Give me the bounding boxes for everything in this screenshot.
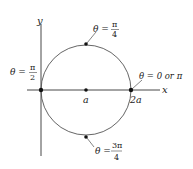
label-theta-pi-over-2: θ = π 2 bbox=[10, 63, 37, 82]
svg-text:4: 4 bbox=[114, 153, 119, 162]
label-theta-0-or-pi: θ = 0 or π bbox=[139, 71, 183, 81]
label-theta-pi-over-4: θ = π 4 bbox=[93, 20, 119, 39]
point-center bbox=[84, 88, 88, 92]
svg-text:θ =: θ = bbox=[95, 146, 111, 156]
point-origin bbox=[39, 88, 43, 92]
svg-text:2: 2 bbox=[30, 73, 35, 82]
svg-text:4: 4 bbox=[112, 30, 117, 39]
leader-bottom bbox=[87, 138, 94, 147]
svg-text:π: π bbox=[30, 63, 35, 72]
two-a-label: 2a bbox=[129, 94, 142, 105]
x-axis-label: x bbox=[162, 84, 168, 95]
label-theta-3pi-over-4: θ = 3π 4 bbox=[95, 141, 122, 162]
svg-text:π: π bbox=[112, 20, 117, 29]
svg-text:3π: 3π bbox=[112, 141, 122, 150]
svg-text:θ =: θ = bbox=[93, 24, 109, 34]
polar-diagram: y x a 2a θ = π 4 θ = π 2 θ = 0 or π θ = … bbox=[0, 0, 193, 169]
center-label: a bbox=[83, 94, 89, 105]
leader-right bbox=[132, 80, 142, 89]
y-axis-label: y bbox=[36, 15, 43, 26]
svg-text:θ =: θ = bbox=[10, 67, 26, 77]
